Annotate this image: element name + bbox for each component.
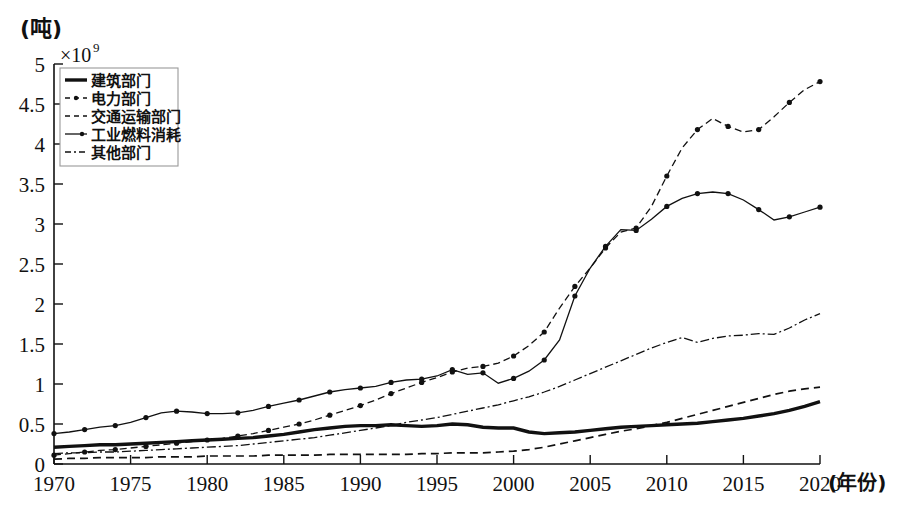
x-tick-label: 1975	[110, 472, 152, 496]
series-point	[205, 411, 210, 416]
series-point	[297, 421, 302, 426]
x-tick-label: 1980	[186, 472, 228, 496]
x-tick-label: 1970	[33, 472, 75, 496]
series-point	[511, 376, 516, 381]
series-point	[572, 293, 577, 298]
y-tick-label: 2.5	[19, 253, 45, 277]
legend-label-power: 电力部门	[91, 90, 151, 108]
series-point	[82, 449, 87, 454]
x-tick-label: 1995	[416, 472, 458, 496]
x-tick-label: 2005	[569, 472, 611, 496]
series-point	[143, 444, 148, 449]
series-point	[419, 377, 424, 382]
series-point	[787, 100, 792, 105]
series-point	[174, 409, 179, 414]
x-tick-label: 2015	[722, 472, 764, 496]
series-point	[572, 284, 577, 289]
series-point	[817, 79, 822, 84]
series-point	[235, 410, 240, 415]
chart-page: (吨) ×10 9 00.511.522.533.544.55 19701975…	[0, 0, 924, 518]
y-axis-unit-label: (吨)	[20, 16, 62, 41]
series-point	[51, 431, 56, 436]
series-point	[664, 173, 669, 178]
series-point	[266, 404, 271, 409]
series-point	[634, 228, 639, 233]
series-point	[725, 191, 730, 196]
series-point	[756, 207, 761, 212]
series-point	[174, 441, 179, 446]
series-point	[297, 397, 302, 402]
x-tick-label: 1990	[339, 472, 381, 496]
series-point	[358, 403, 363, 408]
series-point	[511, 353, 516, 358]
y-tick-label: 5	[35, 53, 46, 77]
y-tick-label: 2	[35, 293, 46, 317]
series-point	[664, 204, 669, 209]
series-point	[327, 413, 332, 418]
series-point	[817, 205, 822, 210]
series-point	[358, 385, 363, 390]
y-tick-label: 1	[35, 373, 46, 397]
series-point	[603, 244, 608, 249]
series-point	[143, 415, 148, 420]
y-tick-label: 0.5	[19, 413, 45, 437]
series-point	[82, 427, 87, 432]
y-tick-label: 3.5	[19, 173, 45, 197]
x-tick-label: 1985	[263, 472, 305, 496]
series-point	[235, 433, 240, 438]
series-line	[54, 402, 820, 448]
legend-label-building: 建筑部门	[91, 72, 151, 90]
legend-label-transport: 交通运输部门	[91, 108, 181, 126]
series-point	[388, 391, 393, 396]
series-line	[54, 192, 820, 434]
y-axis-exponent-power: 9	[93, 40, 100, 55]
legend-label-other: 其他部门	[91, 144, 151, 162]
series-point	[725, 124, 730, 129]
x-axis-ticks: 1970197519801985199019952000200520102015…	[33, 455, 841, 496]
y-tick-label: 3	[35, 213, 46, 237]
series-line	[54, 314, 820, 454]
series-point	[542, 329, 547, 334]
chart-legend[interactable]: 建筑部门电力部门交通运输部门工业燃料消耗其他部门	[60, 68, 181, 166]
series-point	[695, 191, 700, 196]
series-point	[388, 380, 393, 385]
legend-swatch-marker	[80, 132, 84, 136]
x-tick-label: 2000	[493, 472, 535, 496]
series-point	[756, 127, 761, 132]
series-point	[450, 367, 455, 372]
y-tick-label: 4	[35, 133, 46, 157]
series-point	[787, 214, 792, 219]
series-point	[327, 389, 332, 394]
y-tick-label: 1.5	[19, 333, 45, 357]
line-chart: (吨) ×10 9 00.511.522.533.544.55 19701975…	[0, 0, 924, 518]
x-axis-name-label: (年份)	[828, 471, 886, 495]
series-point	[266, 428, 271, 433]
series-point	[695, 127, 700, 132]
legend-swatch-marker	[74, 96, 78, 100]
x-tick-label: 2010	[646, 472, 688, 496]
series-point	[480, 364, 485, 369]
series-point	[205, 437, 210, 442]
y-axis-ticks: 00.511.522.533.544.55	[19, 53, 63, 477]
legend-label-industry: 工业燃料消耗	[91, 126, 181, 144]
y-tick-label: 4.5	[19, 93, 45, 117]
series-point	[542, 357, 547, 362]
series-point	[113, 423, 118, 428]
y-axis-exponent: ×10	[60, 44, 91, 66]
series-point	[480, 370, 485, 375]
